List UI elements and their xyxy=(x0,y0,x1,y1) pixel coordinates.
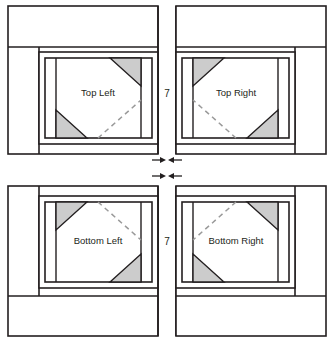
quadrant-label-top-left: Top Left xyxy=(81,87,115,98)
quadrant-bottom-right[interactable]: Bottom Right xyxy=(176,186,326,336)
quadrant-label-bottom-left: Bottom Left xyxy=(74,235,123,246)
quadrant-label-top-right: Top Right xyxy=(216,87,256,98)
quadrant-label-bottom-right: Bottom Right xyxy=(209,235,264,246)
quilt-diagram-canvas: Top Left 7 Top Right xyxy=(0,0,333,338)
quadrant-top-right[interactable]: Top Right xyxy=(176,6,326,154)
quadrant-top-left[interactable]: Top Left xyxy=(8,6,158,154)
seam-label-bottom: 7 xyxy=(164,236,170,247)
seam-label-top: 7 xyxy=(164,88,170,99)
quadrant-bottom-left[interactable]: Bottom Left xyxy=(8,186,158,336)
quilt-diagram-svg: Top Left 7 Top Right xyxy=(0,0,333,338)
